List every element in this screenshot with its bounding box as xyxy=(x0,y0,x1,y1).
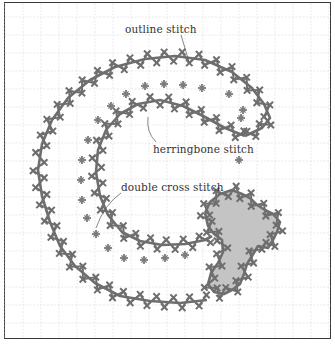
label-herringbone-stitch: herringbone stitch xyxy=(153,143,254,155)
stitch-diagram xyxy=(0,0,335,344)
label-outline-stitch: outline stitch xyxy=(125,23,197,35)
label-double-cross-stitch: double cross stitch xyxy=(121,181,224,193)
grid-lines xyxy=(5,3,331,338)
